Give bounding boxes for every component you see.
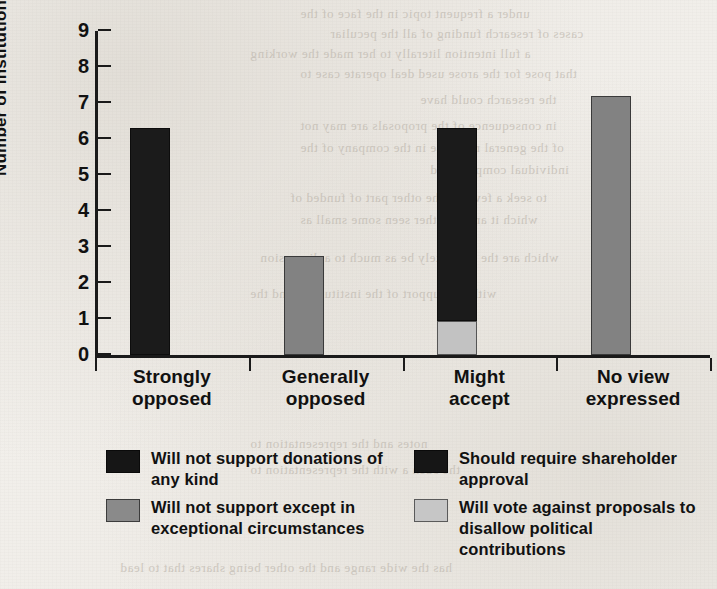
y-tick-7: 7 bbox=[98, 101, 111, 103]
y-tick-5: 5 bbox=[98, 173, 111, 175]
y-tick-4: 4 bbox=[98, 209, 111, 211]
y-tick-9: 9 bbox=[98, 29, 111, 31]
bar-might-accept bbox=[437, 128, 477, 355]
chart-legend: Will not support donations of any kindWi… bbox=[106, 448, 706, 559]
x-category-label: Mightaccept bbox=[403, 366, 557, 411]
plot-area: 0123456789 bbox=[95, 31, 710, 358]
legend-swatch-black bbox=[414, 450, 448, 473]
bar-chart: 0123456789 Number of Institutions Strong… bbox=[0, 0, 717, 589]
y-tick-label: 7 bbox=[78, 92, 89, 112]
legend-right-item: Should require shareholder approval bbox=[414, 448, 704, 489]
bar-no-view-expressed bbox=[591, 96, 631, 355]
x-category-label: Generallyopposed bbox=[249, 366, 403, 411]
y-tick-0: 0 bbox=[98, 353, 111, 355]
x-category-line: Might bbox=[403, 366, 557, 388]
legend-left-item: Will not support except in exceptional c… bbox=[106, 497, 386, 538]
x-category-label: Stronglyopposed bbox=[95, 366, 249, 411]
bar-segment-mid bbox=[284, 256, 324, 355]
y-tick-8: 8 bbox=[98, 65, 111, 67]
y-axis-label: Number of Institutions bbox=[0, 0, 11, 176]
y-axis-line bbox=[95, 31, 98, 358]
legend-label: Will vote against proposals to disallow … bbox=[459, 497, 704, 559]
x-tick-end bbox=[710, 358, 712, 371]
y-tick-label: 0 bbox=[78, 344, 89, 364]
legend-swatch-mid bbox=[106, 499, 140, 522]
legend-swatch-black bbox=[106, 450, 140, 473]
legend-column-left: Will not support donations of any kindWi… bbox=[106, 448, 386, 559]
x-category-line: accept bbox=[403, 388, 557, 410]
y-tick-2: 2 bbox=[98, 281, 111, 283]
y-tick-label: 2 bbox=[78, 272, 89, 292]
y-tick-label: 4 bbox=[78, 200, 89, 220]
legend-left-item: Will not support donations of any kind bbox=[106, 448, 386, 489]
x-category-line: opposed bbox=[95, 388, 249, 410]
legend-right-item: Will vote against proposals to disallow … bbox=[414, 497, 704, 559]
legend-column-right: Should require shareholder approvalWill … bbox=[414, 448, 704, 559]
bar-segment-black bbox=[130, 128, 170, 355]
legend-label: Will not support donations of any kind bbox=[151, 448, 386, 489]
y-tick-label: 8 bbox=[78, 56, 89, 76]
y-tick-label: 5 bbox=[78, 164, 89, 184]
bar-segment-black bbox=[437, 128, 477, 321]
bar-segment-light bbox=[437, 321, 477, 355]
bar-strongly-opposed bbox=[130, 128, 170, 355]
x-category-line: expressed bbox=[556, 388, 710, 410]
y-tick-6: 6 bbox=[98, 137, 111, 139]
legend-label: Will not support except in exceptional c… bbox=[151, 497, 386, 538]
x-category-line: No view bbox=[556, 366, 710, 388]
y-tick-label: 1 bbox=[78, 308, 89, 328]
x-category-line: Generally bbox=[249, 366, 403, 388]
legend-label: Should require shareholder approval bbox=[459, 448, 704, 489]
x-category-line: Strongly bbox=[95, 366, 249, 388]
y-tick-label: 9 bbox=[78, 20, 89, 40]
y-tick-label: 6 bbox=[78, 128, 89, 148]
x-category-label: No viewexpressed bbox=[556, 366, 710, 411]
legend-swatch-light bbox=[414, 499, 448, 522]
y-tick-3: 3 bbox=[98, 245, 111, 247]
y-tick-1: 1 bbox=[98, 317, 111, 319]
x-category-line: opposed bbox=[249, 388, 403, 410]
y-tick-label: 3 bbox=[78, 236, 89, 256]
bar-segment-mid bbox=[591, 96, 631, 355]
bar-generally-opposed bbox=[284, 256, 324, 355]
